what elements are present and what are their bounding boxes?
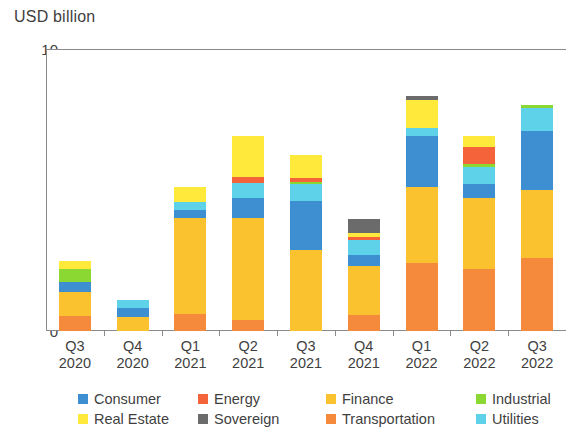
bar-segment[interactable] (290, 201, 322, 250)
x-label-quarter: Q1 (393, 338, 451, 355)
bar-segment[interactable] (463, 184, 495, 198)
x-axis-tick-label: Q42021 (335, 338, 393, 372)
bar-segment[interactable] (521, 190, 553, 258)
legend-label: Industrial (492, 391, 551, 407)
bar-segment[interactable] (174, 314, 206, 331)
x-label-quarter: Q3 (508, 338, 566, 355)
x-axis-tick-mark (393, 331, 394, 336)
bar-segment[interactable] (290, 184, 322, 201)
x-label-quarter: Q3 (46, 338, 104, 355)
bar-segment[interactable] (174, 187, 206, 202)
bar-segment[interactable] (232, 183, 264, 198)
x-axis: Q32020Q42020Q12021Q22021Q32021Q42021Q120… (46, 334, 566, 382)
bar-segment[interactable] (174, 210, 206, 218)
x-label-quarter: Q2 (219, 338, 277, 355)
legend-label: Real Estate (94, 411, 169, 427)
legend-label: Finance (342, 391, 394, 407)
bar-segment[interactable] (59, 269, 91, 282)
bar-segment[interactable] (290, 250, 322, 331)
bar-segment[interactable] (59, 282, 91, 292)
legend-item[interactable]: Real Estate (78, 411, 198, 427)
x-label-year: 2021 (219, 355, 277, 372)
bar-stack[interactable] (117, 300, 149, 331)
bar-segment[interactable] (348, 266, 380, 315)
x-label-quarter: Q2 (450, 338, 508, 355)
legend-swatch-icon (476, 414, 486, 424)
bar-segment[interactable] (521, 131, 553, 190)
legend-item[interactable]: Consumer (78, 391, 198, 407)
x-axis-tick-label: Q22021 (219, 338, 277, 372)
bar-segment[interactable] (59, 292, 91, 316)
bar-segment[interactable] (463, 269, 495, 331)
legend-swatch-icon (78, 414, 88, 424)
legend-item[interactable]: Industrial (476, 391, 577, 407)
x-label-year: 2022 (393, 355, 451, 372)
legend-item[interactable]: Finance (326, 391, 476, 407)
legend-label: Transportation (342, 411, 435, 427)
bar-stack[interactable] (232, 136, 264, 331)
bar-segment[interactable] (59, 316, 91, 332)
bar-segment[interactable] (348, 255, 380, 266)
legend-item[interactable]: Energy (198, 391, 326, 407)
x-axis-tick-label: Q22022 (450, 338, 508, 372)
bar-stack[interactable] (174, 187, 206, 331)
bar-stack[interactable] (463, 136, 495, 331)
bar-segment[interactable] (406, 187, 438, 263)
bar-segment[interactable] (406, 128, 438, 136)
x-label-quarter: Q4 (104, 338, 162, 355)
legend-label: Sovereign (214, 411, 279, 427)
bar-stack[interactable] (406, 96, 438, 331)
bar-segment[interactable] (232, 320, 264, 331)
bar-segment[interactable] (59, 261, 91, 269)
bar-segment[interactable] (463, 198, 495, 269)
bar-segment[interactable] (521, 258, 553, 331)
bar-segment[interactable] (463, 167, 495, 184)
x-label-quarter: Q3 (277, 338, 335, 355)
x-axis-tick-label: Q12021 (162, 338, 220, 372)
bar-stack[interactable] (521, 105, 553, 331)
bar-segment[interactable] (463, 136, 495, 147)
x-label-year: 2021 (162, 355, 220, 372)
x-axis-tick-label: Q12022 (393, 338, 451, 372)
legend-swatch-icon (198, 394, 208, 404)
x-axis-tick-mark (335, 331, 336, 336)
legend-label: Utilities (492, 411, 539, 427)
bar-segment[interactable] (117, 317, 149, 331)
bar-stack[interactable] (59, 261, 91, 331)
legend-item[interactable]: Transportation (326, 411, 476, 427)
x-label-year: 2022 (450, 355, 508, 372)
bar-segment[interactable] (348, 315, 380, 331)
x-axis-tick-mark (219, 331, 220, 336)
bar-segment[interactable] (117, 300, 149, 308)
x-axis-tick-label: Q32021 (277, 338, 335, 372)
bar-segment[interactable] (174, 218, 206, 313)
bar-segment[interactable] (174, 202, 206, 210)
stacked-bar-chart: USD billion 0246810 Q32020Q42020Q12021Q2… (0, 0, 577, 430)
x-axis-tick-mark (104, 331, 105, 336)
bar-segment[interactable] (232, 218, 264, 320)
legend-swatch-icon (78, 394, 88, 404)
x-axis-tick-mark (277, 331, 278, 336)
bar-segment[interactable] (521, 108, 553, 131)
x-axis-tick-mark (450, 331, 451, 336)
bar-stack[interactable] (348, 219, 380, 331)
bar-stack[interactable] (290, 155, 322, 331)
bar-segment[interactable] (406, 263, 438, 331)
bar-segment[interactable] (463, 147, 495, 164)
bar-segment[interactable] (348, 240, 380, 255)
bar-segment[interactable] (232, 136, 264, 177)
bar-segment[interactable] (232, 198, 264, 218)
legend-swatch-icon (198, 414, 208, 424)
bar-segment[interactable] (406, 136, 438, 187)
legend-label: Consumer (94, 391, 161, 407)
bar-segment[interactable] (348, 219, 380, 234)
bar-segment[interactable] (117, 308, 149, 316)
x-label-year: 2020 (46, 355, 104, 372)
bar-segment[interactable] (290, 155, 322, 178)
legend-label: Energy (214, 391, 260, 407)
x-label-quarter: Q1 (162, 338, 220, 355)
bar-segment[interactable] (406, 100, 438, 128)
legend-item[interactable]: Utilities (476, 411, 577, 427)
legend-item[interactable]: Sovereign (198, 411, 326, 427)
x-label-year: 2022 (508, 355, 566, 372)
